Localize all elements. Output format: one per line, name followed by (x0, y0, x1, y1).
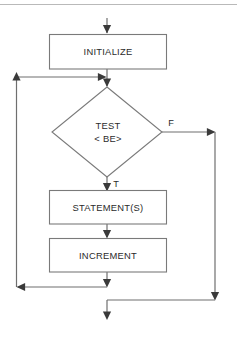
arrowhead-loopback-left (17, 283, 26, 291)
arrowhead-false-branch (207, 128, 216, 136)
arrowhead-loopback-upward (12, 72, 20, 81)
node-increment-label: INCREMENT (79, 250, 137, 261)
arrowhead-entry-to-initialize (103, 25, 111, 34)
arrowhead-statements-to-increment (103, 230, 111, 239)
arrowhead-final-exit (103, 311, 111, 320)
node-statements-label: STATEMENT(S) (73, 202, 144, 213)
branch-label-true: T (113, 179, 119, 189)
node-initialize-label: INITIALIZE (84, 46, 133, 57)
flowchart-canvas: INITIALIZE TEST < BE> STATEMENT(S) INCRE… (0, 0, 237, 339)
arrowhead-initialize-to-test (103, 78, 111, 87)
arrowhead-increment-down (103, 279, 111, 288)
node-test-label-line1: TEST (96, 120, 121, 131)
node-test-diamond (52, 87, 162, 177)
flowchart-figure: INITIALIZE TEST < BE> STATEMENT(S) INCRE… (0, 0, 237, 339)
node-test-label-line2: < BE> (94, 133, 122, 144)
arrowhead-exit-rail-down (211, 292, 219, 301)
branch-label-false: F (168, 118, 174, 128)
